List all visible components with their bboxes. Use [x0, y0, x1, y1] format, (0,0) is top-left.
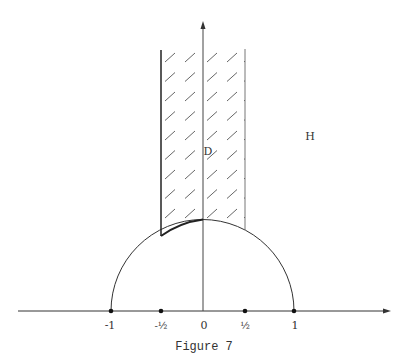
y-axis-arrow-icon — [201, 21, 206, 29]
region-label-h: H — [305, 130, 315, 143]
tick-label-minus-1: -1 — [105, 319, 116, 332]
tick-label-half: ½ — [240, 320, 250, 331]
region-label-d: D — [204, 145, 213, 158]
x-axis-arrow-icon — [383, 309, 391, 314]
tick-label-zero: 0 — [201, 319, 208, 332]
tick-label-minus-half: -½ — [154, 320, 167, 331]
figure-caption: Figure 7 — [175, 340, 233, 354]
figure-diagram: -1 -½ 0 ½ 1 D H Figure 7 — [0, 0, 403, 363]
tick-label-1: 1 — [292, 319, 299, 332]
